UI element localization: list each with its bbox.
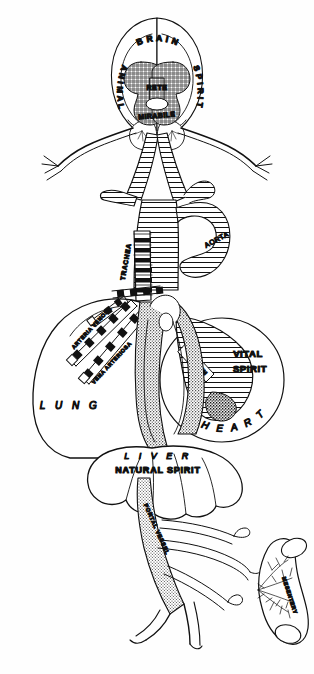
heart-group: SEPTUM VITAL SPIRIT H E A R T <box>135 295 284 450</box>
liver-label: L I V E R <box>124 451 191 461</box>
anatomy-figure: RETE MIRABILE B R A I N A N I M A L S P … <box>0 0 314 674</box>
rete-label-line1: RETE <box>146 84 167 91</box>
liver-group: L I V E R NATURAL SPIRIT <box>88 446 243 519</box>
natural-spirit-label: NATURAL SPIRIT <box>115 465 200 475</box>
diagram-canvas: RETE MIRABILE B R A I N A N I M A L S P … <box>0 0 314 674</box>
vital-spirit-label-line1: VITAL <box>233 348 263 359</box>
vital-spirit-label-line2: SPIRIT <box>233 363 267 374</box>
trachea-label: TRACHEA <box>119 243 132 281</box>
lung-label: L U N G <box>40 400 100 411</box>
great-vessels: AORTA <box>100 133 229 290</box>
